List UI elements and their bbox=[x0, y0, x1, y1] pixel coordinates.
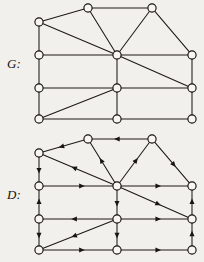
graph-edge bbox=[43, 154, 114, 184]
graph-edge bbox=[43, 9, 85, 21]
vertices-group-d bbox=[35, 135, 196, 254]
graph-edge bbox=[154, 142, 189, 183]
graph-edge bbox=[43, 220, 114, 248]
graph-vertex-right-mid bbox=[188, 84, 196, 92]
graph-vertex-center-mid bbox=[113, 84, 121, 92]
graph-vertex-right-mid bbox=[188, 215, 196, 223]
graph-vertex-top-right-apex bbox=[148, 4, 156, 12]
graph-edge bbox=[43, 23, 114, 53]
graph-vertex-left-lower bbox=[35, 115, 43, 123]
vertices-group-g bbox=[35, 4, 196, 123]
arrows-group-d bbox=[37, 137, 195, 253]
graph-edge bbox=[43, 140, 85, 152]
graph-vertex-right-lower bbox=[188, 246, 196, 254]
graph-vertex-left-lower bbox=[35, 246, 43, 254]
graph-edge bbox=[154, 11, 189, 52]
graph-vertex-right-lower bbox=[188, 115, 196, 123]
graph-vertex-left-upper bbox=[35, 149, 43, 157]
graph-vertex-top-right-apex bbox=[148, 135, 156, 143]
graph-vertex-left-mid-upper bbox=[35, 182, 43, 190]
graph-edge bbox=[119, 11, 149, 52]
graph-vertex-center-lower bbox=[113, 115, 121, 123]
graph-vertex-right-upper bbox=[188, 51, 196, 59]
graph-vertex-left-upper bbox=[35, 18, 43, 26]
graph-vertex-left-mid-lower bbox=[35, 84, 43, 92]
graph-vertex-top-left-apex bbox=[84, 135, 92, 143]
graph-vertex-center-mid bbox=[113, 215, 121, 223]
graph-vertex-left-mid-lower bbox=[35, 215, 43, 223]
graph-vertex-center-lower bbox=[113, 246, 121, 254]
graph-vertex-right-upper bbox=[188, 182, 196, 190]
graph-edge bbox=[119, 142, 149, 183]
graph-vertex-top-left-apex bbox=[84, 4, 92, 12]
graph-edge bbox=[120, 188, 188, 218]
graph-drawing-canvas bbox=[0, 0, 204, 262]
graph-edge bbox=[120, 57, 188, 87]
edges-group-g bbox=[39, 8, 192, 119]
graph-vertex-center-hub bbox=[113, 51, 121, 59]
graph-vertex-center-hub bbox=[113, 182, 121, 190]
graph-figure: G: D: bbox=[0, 0, 204, 262]
graph-edge bbox=[43, 89, 114, 117]
graph-vertex-left-mid-upper bbox=[35, 51, 43, 59]
